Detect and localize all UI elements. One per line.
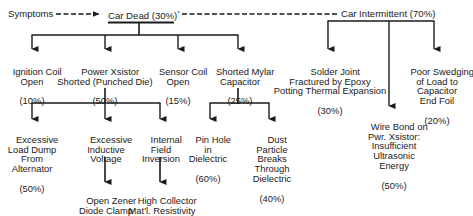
cause-internal-field-inversion: Internal Field Inversion bbox=[140, 125, 182, 174]
fault-tree-diagram: Symptoms Car Dead (30%)* Car Intermitten… bbox=[0, 0, 473, 216]
node-text: Pin Hole in Dielectric bbox=[189, 134, 231, 165]
car-dead-node: Car Dead (30%)* bbox=[108, 8, 180, 21]
node-text: Power Xsistor Shorted (Punched Die) bbox=[57, 66, 152, 87]
node-percent: (60%) bbox=[185, 174, 231, 184]
cause-sensor-coil-open: Sensor Coil Open (15%) bbox=[149, 57, 208, 126]
node-text: Poor Swedging of Load to Capacitor End F… bbox=[410, 66, 473, 106]
car-dead-label: Car Dead (30%) bbox=[108, 10, 177, 21]
node-text: Excessive Load Dump From Alternator bbox=[8, 134, 59, 174]
cause-poor-swedging: Poor Swedging of Load to Capacitor End F… bbox=[400, 57, 473, 145]
cause-dust-particle-breaks-dielectric: Dust Particle Breaks Through Dielectric … bbox=[253, 125, 292, 216]
symptoms-label: Symptoms bbox=[8, 8, 53, 19]
node-percent: (10%) bbox=[2, 96, 61, 106]
node-text: Dust Particle Breaks Through Dielectric bbox=[253, 134, 292, 184]
cause-shorted-mylar-capacitor: Shorted Mylar Capacitor (25%) bbox=[206, 57, 275, 126]
cause-power-xsistor-shorted: Power Xsistor Shorted (Punched Die) (50%… bbox=[57, 57, 152, 126]
node-text: Solder Joint Fractured by Epoxy Potting … bbox=[274, 66, 386, 97]
cause-pin-hole-dielectric: Pin Hole in Dielectric (60%) bbox=[185, 125, 231, 203]
node-text: Shorted Mylar Capacitor bbox=[216, 66, 274, 87]
node-percent: (25%) bbox=[206, 96, 275, 106]
cause-excessive-load-dump: Excessive Load Dump From Alternator (50%… bbox=[6, 125, 59, 213]
node-text: Excessive Inductive Voltage bbox=[87, 134, 132, 165]
node-percent: (15%) bbox=[149, 96, 208, 106]
symptoms-text: Symptoms bbox=[8, 8, 53, 19]
cause-ignition-coil-open: Ignition Coil Open (10%) bbox=[2, 57, 61, 126]
node-text: Internal Field Inversion bbox=[142, 134, 182, 165]
car-intermittent-node: Car Intermittent (70%) bbox=[341, 8, 435, 19]
node-text: Ignition Coil Open bbox=[13, 66, 62, 87]
node-text: Sensor Coil Open bbox=[159, 66, 207, 87]
node-percent: (50%) bbox=[6, 184, 59, 194]
node-percent: (50%) bbox=[57, 96, 152, 106]
node-percent: (50%) bbox=[360, 181, 427, 191]
car-intermittent-label: Car Intermittent (70%) bbox=[341, 8, 435, 19]
node-percent: (40%) bbox=[253, 194, 292, 204]
node-percent: (20%) bbox=[400, 116, 473, 126]
cause-excessive-inductive-voltage: Excessive Inductive Voltage bbox=[80, 125, 133, 174]
footnote-mark: * bbox=[177, 10, 179, 16]
